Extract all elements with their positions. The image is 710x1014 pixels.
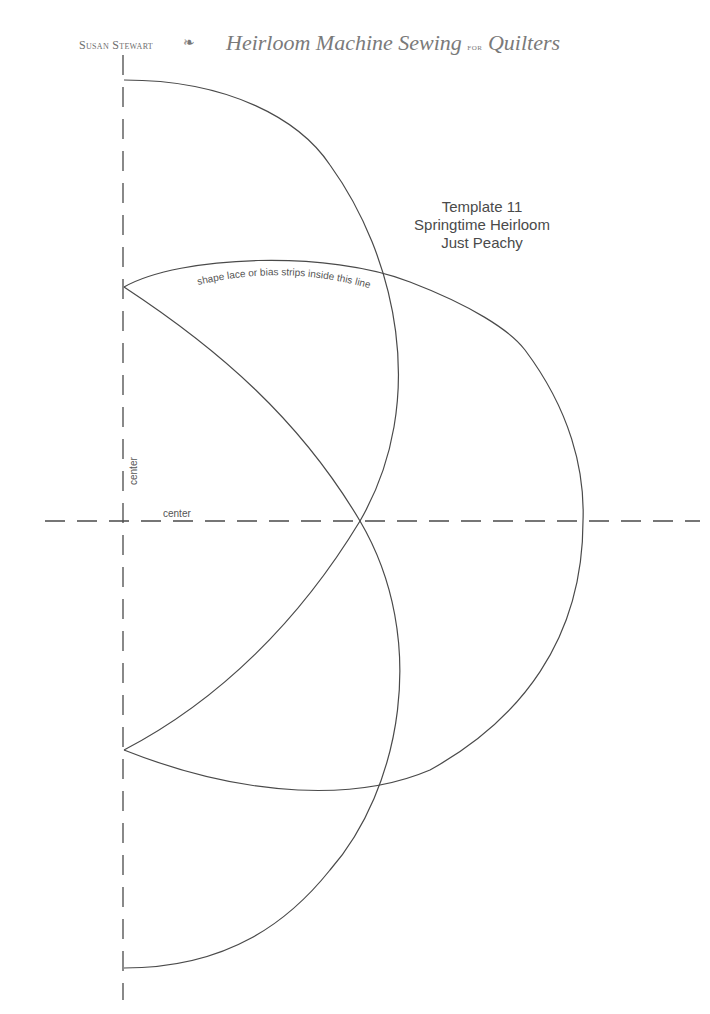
right-petal-upper-outline xyxy=(124,260,583,521)
right-petal-lower-outline xyxy=(124,521,583,790)
horizontal-center-label: center xyxy=(163,508,191,519)
pattern-drawing: shape lace or bias strips inside this li… xyxy=(0,0,710,1014)
bottom-petal-outline xyxy=(124,521,400,968)
top-petal-inner-line xyxy=(124,287,360,521)
lace-instruction-label: shape lace or bias strips inside this li… xyxy=(196,266,372,290)
top-petal-outline xyxy=(124,80,398,521)
bottom-petal-inner-line xyxy=(124,521,360,750)
vertical-center-label: center xyxy=(128,457,139,485)
